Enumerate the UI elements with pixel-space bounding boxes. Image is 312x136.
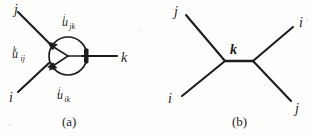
label-j-external-a: j xyxy=(14,3,18,17)
u-ij-k-sup: k xyxy=(13,45,17,54)
label-j-lower-right-b: j xyxy=(295,102,299,116)
label-u-ij-k: ukij xyxy=(12,48,26,60)
leg-i-upper-right-line xyxy=(253,27,293,61)
scan-speck xyxy=(8,124,11,126)
leg-i-line xyxy=(18,63,49,92)
label-k-external-a: k xyxy=(121,51,127,65)
u-ik-j-sub: ik xyxy=(64,95,70,104)
diagram-panel-a: j i k uijk ukij ujik (a) xyxy=(0,0,156,136)
u-ij-k-sub: ij xyxy=(21,54,25,63)
caption-a: (a) xyxy=(62,114,76,130)
leg-i-lower-left-line xyxy=(182,61,225,96)
label-i-external-a: i xyxy=(9,91,13,105)
label-u-jk-i: uijk xyxy=(62,16,76,28)
label-i-upper-right-b: i xyxy=(299,16,303,30)
loop-arrowhead-right xyxy=(84,49,89,64)
spoke-to-j-vertex xyxy=(52,46,68,56)
leg-j-line xyxy=(18,12,52,46)
label-u-ik-j: ujik xyxy=(57,89,71,101)
u-jk-i-sub: jk xyxy=(69,22,75,31)
label-i-lower-left-b: i xyxy=(168,92,172,106)
u-jk-i-sup: i xyxy=(63,13,65,22)
figure-root: j i k uijk ukij ujik (a) xyxy=(0,0,312,136)
scan-speck xyxy=(140,30,142,32)
diagram-a-graphics xyxy=(0,0,156,136)
u-ik-j-sup: j xyxy=(58,86,60,95)
leg-j-upper-left-line xyxy=(186,15,225,61)
label-k-propagator-b: k xyxy=(230,43,237,57)
label-j-upper-left-b: j xyxy=(174,5,178,19)
scan-speck xyxy=(306,18,308,21)
diagram-panel-b: j i i j k (b) xyxy=(156,0,312,136)
leg-j-lower-right-line xyxy=(253,61,291,101)
caption-b: (b) xyxy=(232,114,247,130)
